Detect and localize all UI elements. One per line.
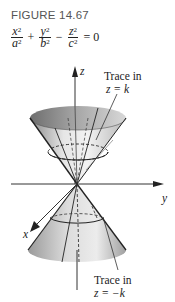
top-trace-label-line2: z = k	[106, 83, 129, 95]
upper-nappe	[30, 106, 126, 184]
bottom-trace-label-line1: Trace in	[94, 274, 132, 286]
bottom-trace-label-line2: z = −k	[94, 287, 125, 299]
double-cone-diagram	[0, 0, 175, 302]
y-axis-arrow-icon	[153, 181, 164, 187]
top-trace-label-line1: Trace in	[104, 70, 142, 82]
x-axis-label: x	[23, 228, 28, 240]
z-axis-arrow-icon	[72, 66, 78, 77]
z-axis-label: z	[80, 65, 84, 77]
y-axis-label: y	[162, 192, 167, 204]
y-axis	[11, 181, 164, 187]
